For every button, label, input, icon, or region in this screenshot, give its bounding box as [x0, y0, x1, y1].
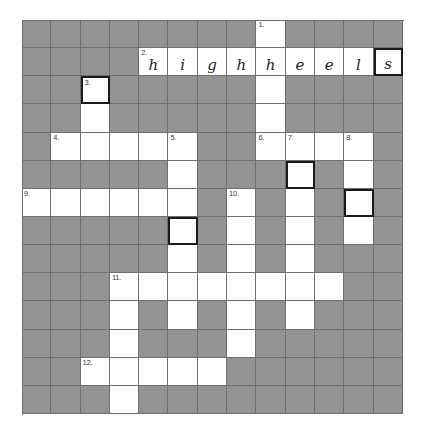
crossword-open-cell[interactable]	[139, 273, 168, 301]
crossword-answer-cell[interactable]: s	[374, 48, 403, 76]
crossword-open-cell[interactable]: 11.	[110, 273, 139, 301]
crossword-open-cell[interactable]	[51, 189, 80, 217]
cell-letter: l	[344, 57, 372, 73]
crossword-open-cell[interactable]	[168, 189, 197, 217]
crossword-open-cell[interactable]	[227, 330, 256, 358]
crossword-open-cell[interactable]	[81, 133, 110, 161]
crossword-block-cell	[198, 189, 227, 217]
crossword-open-cell[interactable]	[256, 104, 285, 132]
crossword-block-cell	[139, 20, 168, 48]
crossword-block-cell	[81, 161, 110, 189]
crossword-open-cell[interactable]: i	[168, 48, 197, 76]
crossword-block-cell	[81, 48, 110, 76]
crossword-block-cell	[110, 48, 139, 76]
crossword-open-cell[interactable]	[315, 133, 344, 161]
crossword-block-cell	[22, 48, 51, 76]
crossword-open-cell[interactable]: 1.	[256, 20, 285, 48]
crossword-block-cell	[81, 217, 110, 245]
crossword-open-cell[interactable]: 6.	[256, 133, 285, 161]
crossword-answer-cell[interactable]	[344, 189, 373, 217]
cell-letter: e	[315, 57, 343, 73]
crossword-open-cell[interactable]	[110, 301, 139, 329]
crossword-open-cell[interactable]: h	[256, 48, 285, 76]
crossword-block-cell	[315, 76, 344, 104]
crossword-block-cell	[81, 330, 110, 358]
crossword-block-cell	[22, 76, 51, 104]
crossword-open-cell[interactable]: g	[198, 48, 227, 76]
crossword-open-cell[interactable]: 4.	[51, 133, 80, 161]
crossword-block-cell	[139, 301, 168, 329]
crossword-open-cell[interactable]	[198, 358, 227, 386]
crossword-open-cell[interactable]	[81, 104, 110, 132]
crossword-open-cell[interactable]	[110, 133, 139, 161]
crossword-answer-cell[interactable]	[286, 161, 315, 189]
crossword-open-cell[interactable]: 12.	[81, 358, 110, 386]
crossword-block-cell	[22, 330, 51, 358]
crossword-block-cell	[256, 301, 285, 329]
crossword-open-cell[interactable]	[198, 273, 227, 301]
crossword-open-cell[interactable]	[110, 189, 139, 217]
crossword-open-cell[interactable]: 5.	[168, 133, 197, 161]
crossword-open-cell[interactable]	[286, 301, 315, 329]
crossword-block-cell	[110, 245, 139, 273]
crossword-block-cell	[198, 386, 227, 414]
cell-letter: e	[286, 57, 314, 73]
crossword-block-cell	[110, 20, 139, 48]
crossword-open-cell[interactable]	[139, 358, 168, 386]
crossword-block-cell	[344, 245, 373, 273]
crossword-open-cell[interactable]	[168, 358, 197, 386]
crossword-block-cell	[315, 20, 344, 48]
crossword-open-cell[interactable]: 7.	[286, 133, 315, 161]
crossword-open-cell[interactable]	[286, 217, 315, 245]
crossword-open-cell[interactable]	[110, 358, 139, 386]
crossword-open-cell[interactable]	[256, 76, 285, 104]
crossword-block-cell	[110, 76, 139, 104]
crossword-block-cell	[51, 104, 80, 132]
crossword-block-cell	[344, 330, 373, 358]
crossword-block-cell	[374, 76, 403, 104]
crossword-open-cell[interactable]	[315, 273, 344, 301]
crossword-block-cell	[139, 386, 168, 414]
crossword-open-cell[interactable]: l	[344, 48, 373, 76]
crossword-open-cell[interactable]	[286, 189, 315, 217]
crossword-open-cell[interactable]	[227, 273, 256, 301]
crossword-answer-cell[interactable]	[168, 217, 197, 245]
crossword-open-cell[interactable]	[139, 133, 168, 161]
crossword-open-cell[interactable]: 9.	[22, 189, 51, 217]
crossword-open-cell[interactable]	[227, 245, 256, 273]
crossword-open-cell[interactable]	[168, 161, 197, 189]
crossword-open-cell[interactable]: e	[315, 48, 344, 76]
crossword-open-cell[interactable]	[344, 161, 373, 189]
crossword-block-cell	[374, 133, 403, 161]
crossword-open-cell[interactable]	[110, 386, 139, 414]
crossword-open-cell[interactable]: e	[286, 48, 315, 76]
crossword-block-cell	[374, 301, 403, 329]
crossword-open-cell[interactable]: 10.	[227, 189, 256, 217]
crossword-open-cell[interactable]	[81, 189, 110, 217]
crossword-open-cell[interactable]	[286, 273, 315, 301]
crossword-block-cell	[168, 104, 197, 132]
crossword-open-cell[interactable]	[168, 273, 197, 301]
crossword-block-cell	[198, 76, 227, 104]
cell-letter: h	[256, 57, 284, 73]
crossword-open-cell[interactable]: 2.h	[139, 48, 168, 76]
crossword-open-cell[interactable]	[344, 217, 373, 245]
crossword-open-cell[interactable]	[110, 330, 139, 358]
crossword-block-cell	[286, 386, 315, 414]
crossword-open-cell[interactable]	[168, 301, 197, 329]
crossword-block-cell	[51, 48, 80, 76]
crossword-open-cell[interactable]	[286, 245, 315, 273]
crossword-answer-cell[interactable]: 3.	[81, 76, 110, 104]
crossword-open-cell[interactable]	[168, 245, 197, 273]
crossword-block-cell	[256, 245, 285, 273]
crossword-open-cell[interactable]	[227, 217, 256, 245]
crossword-open-cell[interactable]	[227, 301, 256, 329]
crossword-open-cell[interactable]: 8.	[344, 133, 373, 161]
crossword-grid[interactable]: 1.2.highheels3.4.5.6.7.8.9.10.11.12.	[22, 20, 403, 414]
crossword-open-cell[interactable]	[139, 189, 168, 217]
crossword-block-cell	[22, 358, 51, 386]
crossword-open-cell[interactable]	[256, 273, 285, 301]
crossword-block-cell	[81, 20, 110, 48]
crossword-open-cell[interactable]: h	[227, 48, 256, 76]
cell-letter: h	[227, 57, 255, 73]
